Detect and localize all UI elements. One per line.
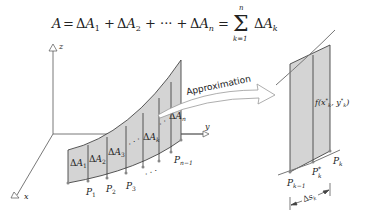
strip-fill [290, 45, 330, 172]
term-n: ΔAn [190, 16, 214, 33]
sum-upper: n [239, 4, 244, 12]
ellipsis-points: · · · [144, 166, 159, 179]
point-p1: P1 [85, 187, 96, 198]
diagram: A = ΔA1 + ΔA2 + ··· + ΔAn = Σ n k=1 ΔAk … [0, 0, 367, 218]
point-pk-star: P*k [311, 165, 322, 179]
plus-2: + ··· + [145, 16, 187, 31]
x-axis [17, 134, 53, 195]
z-arrow-icon [49, 44, 57, 51]
point-pk: Pk [332, 156, 343, 167]
formula-lhs: A [51, 16, 61, 31]
term-1: ΔA1 [76, 16, 100, 33]
sum-term: ΔAk [254, 16, 278, 33]
y-label: y [204, 122, 210, 131]
sum-lower: k=1 [233, 35, 248, 43]
point-p2: P2 [105, 184, 116, 195]
term-2: ΔA2 [117, 16, 141, 33]
equals-sign: = [63, 16, 74, 31]
point-pk-1: Pk−1 [286, 178, 306, 189]
arc-length-label: Δsk [302, 191, 318, 205]
sigma-icon: Σ [233, 11, 249, 36]
point-p3: P3 [125, 181, 136, 192]
plus-1: + [104, 16, 115, 31]
height-label: f(x*k, y*k) [314, 97, 349, 108]
point-pn-1: Pn−1 [173, 155, 193, 166]
formula: A = ΔA1 + ΔA2 + ··· + ΔAn = Σ n k=1 ΔAk [51, 4, 278, 43]
y-arrow-icon [203, 131, 209, 137]
x-label: x [24, 192, 29, 201]
z-label: z [58, 42, 64, 51]
equals-sign-2: = [218, 16, 229, 31]
